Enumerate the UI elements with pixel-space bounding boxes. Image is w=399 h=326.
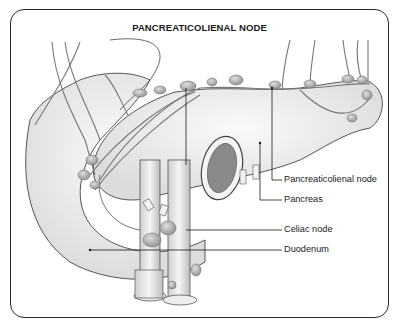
lymph-node — [347, 114, 357, 122]
lymph-node — [357, 76, 367, 84]
vessel-vena-cava-end — [163, 295, 197, 305]
label-pancreaticolienal-node: Pancreaticolienal node — [284, 174, 377, 184]
lymph-node — [304, 80, 316, 88]
lymph-node — [191, 264, 201, 276]
lymph-node — [180, 81, 196, 91]
lymph-node — [133, 89, 147, 97]
label-duodenum: Duodenum — [284, 244, 329, 254]
lymph-node — [362, 90, 372, 100]
lymph-node — [143, 233, 161, 247]
lymph-node — [168, 281, 176, 289]
lymph-node — [207, 78, 217, 86]
lymph-node — [269, 81, 281, 89]
anatomy-illustration — [0, 0, 399, 326]
vessel-lower — [135, 270, 163, 298]
label-celiac-node: Celiac node — [284, 224, 333, 234]
lymph-node — [229, 75, 243, 85]
lymph-node — [90, 181, 100, 189]
lymph-node — [160, 221, 176, 235]
lymph-node — [78, 170, 90, 180]
lymph-node — [86, 155, 98, 165]
lymph-node — [342, 75, 354, 83]
lymph-node — [154, 86, 166, 94]
label-pancreas: Pancreas — [284, 194, 323, 204]
